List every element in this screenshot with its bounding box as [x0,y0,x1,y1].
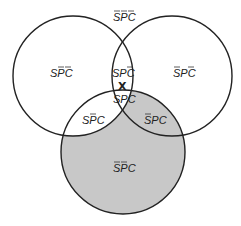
region-label-p-only: SPC [173,67,196,79]
svg-text:SPC: SPC [112,67,135,79]
svg-text:SPC: SPC [173,67,196,79]
venn-diagram: SPC SPC SPC SPC X SPC SPC SPC SPC [0,0,241,226]
svg-text:SPC: SPC [82,114,105,126]
region-label-s-c: SPC [82,114,105,126]
svg-text:SPC: SPC [144,114,167,126]
x-mark: X [118,80,127,93]
region-label-p-c: SPC [144,114,167,126]
svg-text:SPC: SPC [113,11,136,23]
region-label-outside: SPC [113,11,136,23]
svg-text:SPC: SPC [113,93,136,105]
region-label-s-p-c: SPC [113,93,136,105]
svg-text:SPC: SPC [50,67,73,79]
region-label-c-only: SPC [113,162,136,174]
region-label-s-only: SPC [50,67,73,79]
svg-text:SPC: SPC [113,162,136,174]
region-label-s-p: SPC [112,67,135,79]
